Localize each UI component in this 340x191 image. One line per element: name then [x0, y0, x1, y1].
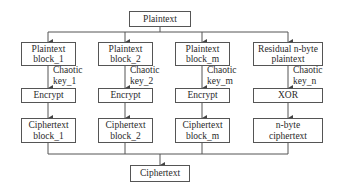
input-label-line2: plaintext	[271, 54, 304, 65]
output-label-line2: block_m	[186, 131, 219, 142]
ciphertext-block-1-box: Ciphertext block_1	[21, 118, 76, 143]
plaintext-block-1-box: Plaintext block_1	[21, 42, 76, 66]
encrypt-1-box: Encrypt	[21, 88, 76, 103]
encrypt-m-box: Encrypt	[175, 88, 230, 103]
input-label-line1: Plaintext	[32, 44, 66, 55]
output-label-line2: block_2	[110, 131, 141, 142]
ciphertext-label: Ciphertext	[140, 168, 180, 179]
input-label-line1: Plaintext	[186, 44, 220, 55]
output-label-line1: Ciphertext	[182, 120, 222, 131]
input-label-line1: Plaintext	[109, 44, 143, 55]
input-label-line2: block_2	[110, 54, 141, 65]
op-label: Encrypt	[33, 90, 63, 101]
plaintext-block-m-box: Plaintext block_m	[175, 42, 230, 66]
chaotic-key-m-label: Chaotickey_m	[207, 65, 237, 86]
plaintext-label: Plaintext	[143, 14, 177, 25]
output-label-line1: Ciphertext	[105, 120, 145, 131]
output-label-line2: block_1	[33, 131, 64, 142]
input-label-line1: Residual n-byte	[258, 44, 318, 55]
encrypt-2-box: Encrypt	[98, 88, 153, 103]
op-label: Encrypt	[187, 90, 217, 101]
input-label-line2: block_m	[186, 54, 219, 65]
chaotic-key-2-label: Chaotickey_2	[130, 65, 160, 86]
chaotic-key-n-label: Chaotickey_n	[293, 65, 323, 86]
output-label-line1: n-byte	[276, 120, 300, 131]
n-byte-ciphertext-box: n-byte ciphertext	[253, 118, 323, 143]
xor-box: XOR	[253, 88, 323, 103]
ciphertext-block-m-box: Ciphertext block_m	[175, 118, 230, 143]
op-label: Encrypt	[110, 90, 140, 101]
ciphertext-box: Ciphertext	[130, 165, 190, 182]
output-label-line1: Ciphertext	[28, 120, 68, 131]
residual-plaintext-box: Residual n-byte plaintext	[253, 42, 323, 66]
input-label-line2: block_1	[33, 54, 64, 65]
op-label: XOR	[278, 90, 298, 101]
plaintext-block-2-box: Plaintext block_2	[98, 42, 153, 66]
ciphertext-block-2-box: Ciphertext block_2	[98, 118, 153, 143]
chaotic-key-1-label: Chaotickey_1	[53, 65, 83, 86]
plaintext-box: Plaintext	[129, 11, 191, 27]
output-label-line2: ciphertext	[269, 131, 307, 142]
